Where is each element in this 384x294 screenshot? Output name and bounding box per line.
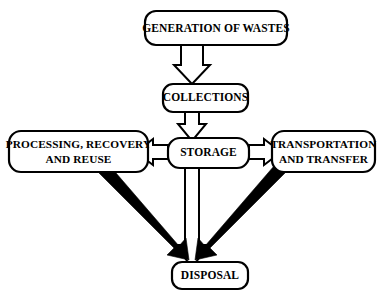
node-generation-label: GENERATION OF WASTES — [142, 22, 290, 34]
connector-transportation-to-disposal — [195, 166, 288, 260]
node-disposal[interactable]: DISPOSAL — [172, 262, 248, 289]
node-storage[interactable]: STORAGE — [168, 138, 249, 168]
node-transportation-label-line1: TRANSPORTATION — [270, 138, 377, 150]
node-processing-recovery-and-reuse[interactable]: PROCESSING, RECOVERY AND REUSE — [6, 131, 151, 172]
node-processing-label-line2: AND REUSE — [46, 153, 112, 165]
node-processing-label-line1: PROCESSING, RECOVERY — [6, 138, 151, 150]
node-generation-of-wastes[interactable]: GENERATION OF WASTES — [142, 11, 290, 45]
node-disposal-label: DISPOSAL — [181, 269, 240, 281]
connector-processing-to-disposal — [96, 166, 189, 260]
connector-generation-to-collections — [174, 45, 210, 84]
node-transportation-label-line2: AND TRANSFER — [279, 153, 369, 165]
node-collections[interactable]: COLLECTIONS — [163, 84, 248, 112]
node-transportation-and-transfer[interactable]: TRANSPORTATION AND TRANSFER — [270, 131, 377, 172]
solid-arrow-down-left-icon — [195, 166, 288, 260]
node-collections-label: COLLECTIONS — [163, 91, 248, 103]
waste-management-flow-diagram: GENERATION OF WASTES COLLECTIONS PROCESS… — [0, 0, 384, 294]
connector-collections-to-storage — [178, 112, 206, 141]
solid-arrow-down-right-icon — [96, 166, 189, 260]
hollow-arrow-down-icon — [178, 112, 206, 141]
hollow-arrow-down-icon — [174, 45, 210, 84]
flowchart-canvas: GENERATION OF WASTES COLLECTIONS PROCESS… — [0, 0, 384, 294]
node-storage-label: STORAGE — [180, 146, 237, 158]
